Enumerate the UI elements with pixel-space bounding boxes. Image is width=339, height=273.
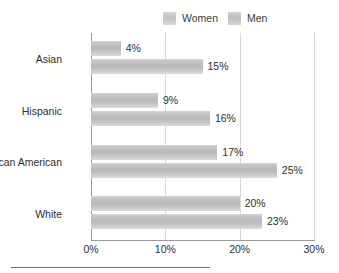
legend-label-men: Men bbox=[247, 13, 267, 24]
bar-asian-men[interactable] bbox=[91, 59, 203, 74]
category-label-white: White bbox=[0, 208, 62, 220]
bar-group-african-american: African American 17% 25% bbox=[91, 137, 314, 189]
bar-white-women[interactable] bbox=[91, 196, 240, 211]
plot-wrap: Asian 4% 15% Hispanic 9% 16% African Ame… bbox=[0, 33, 339, 243]
bar-asian-women[interactable] bbox=[91, 41, 121, 56]
category-label-african-american: African American bbox=[0, 156, 62, 168]
bar-value-asian-men: 15% bbox=[203, 59, 229, 74]
x-axis-tick-labels: 0% 10% 20% 30% bbox=[0, 243, 339, 259]
legend-swatch-men-icon bbox=[228, 12, 241, 25]
plot-area: Asian 4% 15% Hispanic 9% 16% African Ame… bbox=[91, 33, 314, 240]
bar-value-african-american-women: 17% bbox=[217, 145, 243, 160]
x-tick-20: 20% bbox=[229, 243, 250, 255]
grouped-bar-chart: Women Men Asian 4% 15% Hispanic bbox=[0, 0, 339, 273]
bar-hispanic-men[interactable] bbox=[91, 111, 210, 126]
bar-value-white-men: 23% bbox=[262, 214, 288, 229]
legend-label-women: Women bbox=[182, 13, 218, 24]
bar-group-hispanic: Hispanic 9% 16% bbox=[91, 85, 314, 137]
bar-group-white: White 20% 23% bbox=[91, 188, 314, 240]
x-tick-0: 0% bbox=[83, 243, 98, 255]
gridline-30 bbox=[314, 33, 315, 240]
legend-swatch-women-icon bbox=[163, 12, 176, 25]
category-label-asian: Asian bbox=[0, 53, 62, 65]
legend-item-men[interactable]: Men bbox=[228, 12, 267, 25]
bar-value-african-american-men: 25% bbox=[277, 163, 303, 178]
legend-item-women[interactable]: Women bbox=[163, 12, 218, 25]
bar-hispanic-women[interactable] bbox=[91, 93, 158, 108]
x-axis-line bbox=[91, 240, 315, 241]
bar-african-american-women[interactable] bbox=[91, 145, 217, 160]
bar-value-hispanic-men: 16% bbox=[210, 111, 236, 126]
x-tick-10: 10% bbox=[155, 243, 176, 255]
bar-value-asian-women: 4% bbox=[121, 41, 141, 56]
chart-legend: Women Men bbox=[163, 9, 267, 27]
category-label-hispanic: Hispanic bbox=[0, 105, 62, 117]
bar-value-white-women: 20% bbox=[240, 196, 266, 211]
x-tick-30: 30% bbox=[303, 243, 324, 255]
bar-white-men[interactable] bbox=[91, 214, 262, 229]
bar-group-asian: Asian 4% 15% bbox=[91, 33, 314, 85]
bar-value-hispanic-women: 9% bbox=[158, 93, 178, 108]
bar-african-american-men[interactable] bbox=[91, 163, 277, 178]
footer-divider bbox=[11, 267, 210, 268]
